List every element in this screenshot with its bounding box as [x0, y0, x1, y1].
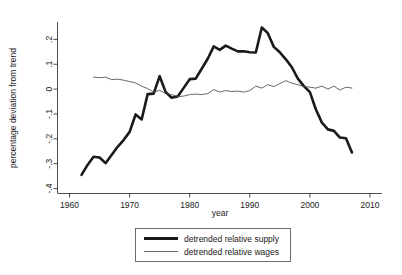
series-line-detrended-relative-wages	[94, 77, 352, 96]
y-axis-title: percentage deviation from trend	[8, 48, 18, 168]
y-tick-label: -.1	[44, 109, 54, 119]
x-tick-label: 1960	[60, 200, 79, 210]
legend: detrended relative supply detrended rela…	[136, 229, 291, 262]
x-tick-label: 2000	[300, 200, 319, 210]
x-axis-title: year	[212, 208, 229, 218]
x-tick-label: 2010	[361, 200, 380, 210]
y-tick-label: .1	[44, 60, 54, 67]
y-tick-label: 0	[44, 86, 54, 91]
legend-label-wages: detrended relative wages	[184, 247, 279, 257]
series-line-detrended-relative-supply	[82, 27, 352, 174]
chart-figure: .2.10-.1-.2-.3-.4 1960197019801990200020…	[0, 0, 402, 275]
y-tick-label: -.3	[44, 158, 54, 168]
y-tick-label: -.2	[44, 134, 54, 144]
x-tick-label: 1990	[240, 200, 259, 210]
y-tick-label: .2	[44, 36, 54, 43]
x-tick-label: 1970	[120, 200, 139, 210]
y-axis-ticks: .2.10-.1-.2-.3-.4	[44, 36, 58, 194]
x-tick-label: 1980	[180, 200, 199, 210]
legend-label-supply: detrended relative supply	[184, 234, 280, 244]
y-tick-label: -.4	[44, 183, 54, 193]
plot-frame	[58, 22, 383, 194]
line-chart: .2.10-.1-.2-.3-.4 1960197019801990200020…	[0, 0, 402, 275]
